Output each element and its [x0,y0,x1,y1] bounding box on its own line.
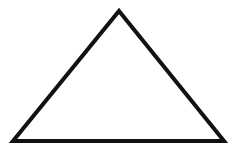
canvas-background [0,0,233,149]
figure-canvas [0,0,233,149]
triangle-svg [0,0,233,149]
